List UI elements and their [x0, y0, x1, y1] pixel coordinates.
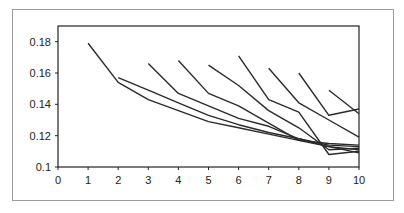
- x-tick-label: 4: [175, 174, 181, 186]
- x-tick-label: 0: [55, 174, 61, 186]
- x-tick-label: 5: [205, 174, 211, 186]
- x-tick-label: 1: [85, 174, 91, 186]
- x-tick-label: 8: [296, 174, 302, 186]
- y-tick-label: 0.14: [30, 98, 51, 110]
- x-tick-label: 7: [266, 174, 272, 186]
- y-tick-label: 0.18: [30, 36, 51, 48]
- x-tick-label: 10: [353, 174, 365, 186]
- x-tick-label: 3: [145, 174, 151, 186]
- x-tick-label: 6: [236, 174, 242, 186]
- x-tick-label: 9: [326, 174, 332, 186]
- x-tick-label: 2: [115, 174, 121, 186]
- plot-area: [58, 26, 359, 167]
- line-chart: 012345678910 0.10.120.140.160.18: [0, 0, 404, 213]
- y-axis: 0.10.120.140.160.18: [30, 36, 58, 173]
- y-tick-label: 0.1: [36, 161, 51, 173]
- y-tick-label: 0.12: [30, 130, 51, 142]
- y-tick-label: 0.16: [30, 67, 51, 79]
- x-axis: 012345678910: [55, 167, 365, 186]
